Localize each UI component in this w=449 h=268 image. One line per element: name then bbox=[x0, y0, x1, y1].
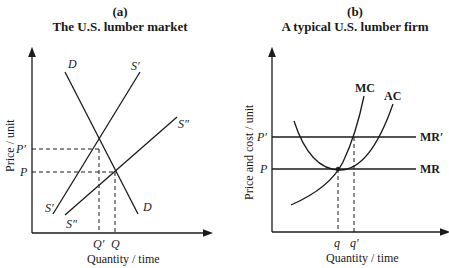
tick-q-prime-b: q′ bbox=[350, 236, 359, 250]
label-d-top: D bbox=[67, 57, 77, 71]
equilibrium-point bbox=[336, 167, 340, 171]
tick-p-prime-b: P′ bbox=[256, 130, 267, 144]
panel-b-x-label: Quantity / time bbox=[326, 251, 399, 265]
panel-a-x-label: Quantity / time bbox=[87, 252, 160, 266]
label-mc: MC bbox=[355, 81, 375, 95]
label-s-prime-top: S′ bbox=[131, 59, 140, 73]
label-mr-prime: MR′ bbox=[420, 130, 443, 144]
tick-p-b: P bbox=[259, 162, 268, 176]
panel-a bbox=[32, 52, 208, 233]
panel-a-y-label: Price / unit bbox=[3, 119, 17, 172]
diagram-canvas: D S′ S″ S′ S″ D P′ P Q′ Q Quantity / tim… bbox=[0, 0, 449, 268]
panel-b-y-label: Price and cost / unit bbox=[242, 104, 256, 200]
mc-curve bbox=[291, 96, 364, 205]
label-d-bottom: D bbox=[142, 200, 152, 214]
tick-p: P bbox=[19, 165, 28, 179]
label-s-double-prime-bottom: S″ bbox=[66, 217, 78, 231]
label-ac: AC bbox=[384, 89, 401, 103]
label-mr: MR bbox=[420, 162, 440, 176]
tick-q-prime: Q′ bbox=[93, 237, 105, 251]
tick-q-b: q bbox=[334, 236, 340, 250]
label-s-prime-bottom: S′ bbox=[45, 201, 54, 215]
label-s-double-prime-top: S″ bbox=[178, 117, 190, 131]
tick-q: Q bbox=[111, 237, 120, 251]
